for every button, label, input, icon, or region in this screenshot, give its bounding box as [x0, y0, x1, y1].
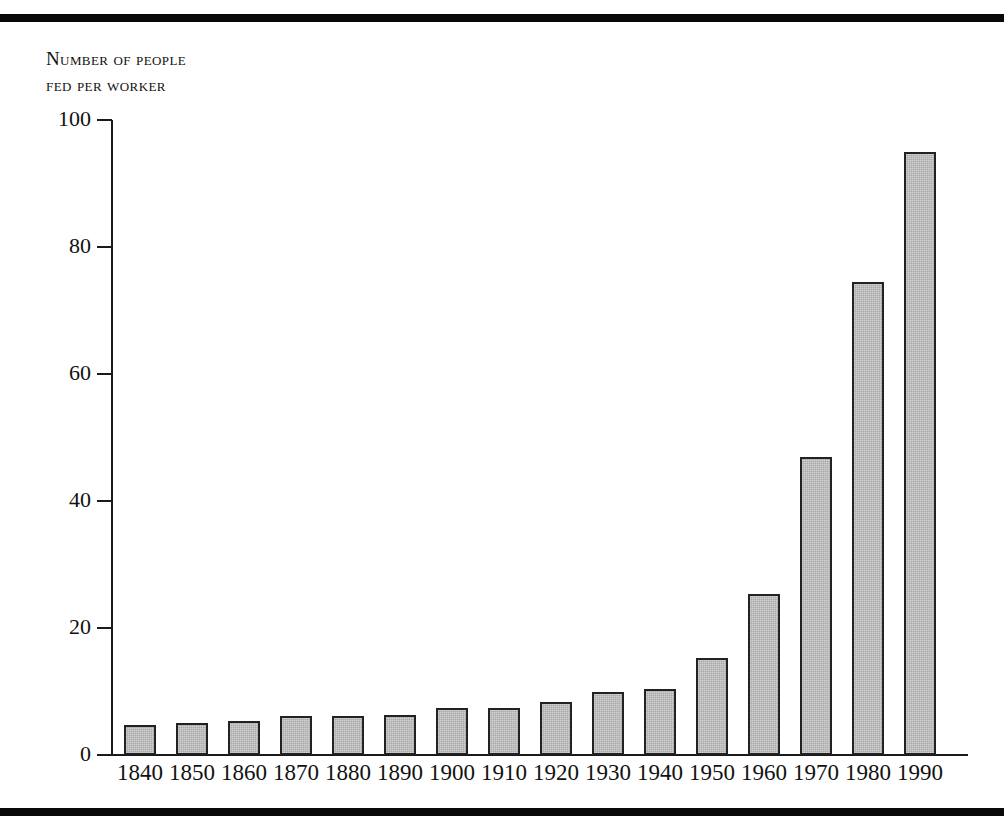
bar-1990 — [904, 152, 936, 755]
y-axis-tick-label: 20 — [31, 616, 91, 638]
bar-1890 — [384, 715, 416, 755]
x-axis-tick-label-1870: 1870 — [268, 760, 324, 786]
bar-1860 — [228, 721, 260, 755]
bar-chart-plot: 0204060801001840185018601870188018901900… — [0, 0, 1004, 833]
x-axis-tick-label-1990: 1990 — [892, 760, 948, 786]
y-axis-tick — [97, 119, 112, 121]
bar-1850 — [176, 723, 208, 755]
y-axis-tick-label: 40 — [31, 489, 91, 511]
bar-1840 — [124, 725, 156, 755]
bar-1920 — [540, 702, 572, 755]
y-axis-line — [111, 120, 113, 756]
bar-1910 — [488, 708, 520, 755]
x-axis-tick-label-1910: 1910 — [476, 760, 532, 786]
x-axis-tick-label-1950: 1950 — [684, 760, 740, 786]
x-axis-tick-label-1890: 1890 — [372, 760, 428, 786]
bar-1950 — [696, 658, 728, 755]
bar-1980 — [852, 282, 884, 755]
y-axis-tick — [97, 627, 112, 629]
y-axis-tick-label: 100 — [31, 108, 91, 130]
y-axis-tick — [97, 246, 112, 248]
x-axis-tick-label-1930: 1930 — [580, 760, 636, 786]
bar-1930 — [592, 692, 624, 756]
y-axis-tick-label: 80 — [31, 235, 91, 257]
x-axis-tick-label-1880: 1880 — [320, 760, 376, 786]
x-axis-tick-label-1860: 1860 — [216, 760, 272, 786]
y-axis-tick — [97, 373, 112, 375]
bar-1870 — [280, 716, 312, 755]
bar-1970 — [800, 457, 832, 755]
y-axis-tick — [97, 500, 112, 502]
x-axis-tick-label-1900: 1900 — [424, 760, 480, 786]
y-axis-tick-label: 0 — [31, 743, 91, 765]
bar-1960 — [748, 594, 780, 755]
y-axis-tick — [97, 754, 112, 756]
x-axis-tick-label-1850: 1850 — [164, 760, 220, 786]
x-axis-tick-label-1940: 1940 — [632, 760, 688, 786]
bar-1880 — [332, 716, 364, 755]
bar-1940 — [644, 689, 676, 755]
y-axis-tick-label: 60 — [31, 362, 91, 384]
x-axis-tick-label-1960: 1960 — [736, 760, 792, 786]
bar-1900 — [436, 708, 468, 755]
x-axis-tick-label-1980: 1980 — [840, 760, 896, 786]
figure-page: Number of people fed per worker 02040608… — [0, 0, 1004, 833]
x-axis-tick-label-1840: 1840 — [112, 760, 168, 786]
x-axis-tick-label-1920: 1920 — [528, 760, 584, 786]
x-axis-tick-label-1970: 1970 — [788, 760, 844, 786]
